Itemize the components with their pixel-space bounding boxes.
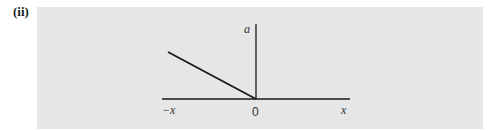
origin-label: 0 (252, 105, 259, 119)
x-axis-label: x (340, 103, 347, 117)
diagram-canvas: a −x 0 x (0, 0, 489, 131)
y-axis-label: a (244, 22, 250, 36)
x-axis-neg-label: −x (162, 103, 176, 117)
graph-line (168, 52, 256, 99)
